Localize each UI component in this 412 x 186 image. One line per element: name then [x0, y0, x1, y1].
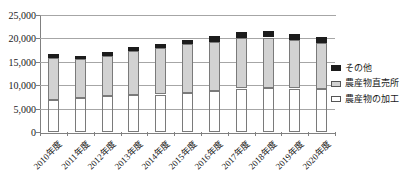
- x-tick-mark: [40, 132, 41, 136]
- y-tick-label: 10,000: [0, 80, 36, 91]
- x-tick-mark: [281, 132, 282, 136]
- x-tick-label: 2018年度: [247, 139, 280, 172]
- y-tick-label: 0: [0, 127, 36, 138]
- bar-segment: [236, 89, 247, 133]
- bar-segment: [289, 89, 300, 133]
- bar-segment: [48, 100, 59, 132]
- bar-segment: [209, 42, 220, 91]
- bar-segment: [316, 43, 327, 89]
- legend-label: その他: [345, 63, 372, 74]
- bar-segment: [236, 32, 247, 38]
- bar-segment: [102, 52, 113, 56]
- x-tick-label: 2015年度: [166, 139, 199, 172]
- legend-swatch: [331, 81, 341, 87]
- bar-segment: [75, 56, 86, 59]
- bar-segment: [316, 37, 327, 43]
- bar-segment: [155, 44, 166, 48]
- y-tick-mark: [36, 38, 40, 39]
- bar-segment: [182, 40, 193, 44]
- stacked-bar-chart: 05,00010,00015,00020,00025,000 2010年度201…: [0, 0, 412, 186]
- x-tick-label: 2013年度: [112, 139, 145, 172]
- bar-segment: [48, 58, 59, 100]
- x-tick-label: 2017年度: [220, 139, 253, 172]
- bar-segment: [316, 89, 327, 132]
- x-tick-mark: [174, 132, 175, 136]
- y-tick-mark: [36, 85, 40, 86]
- x-tick-mark: [94, 132, 95, 136]
- bar-segment: [236, 38, 247, 89]
- y-tick-label: 15,000: [0, 57, 36, 68]
- y-tick-label: 25,000: [0, 10, 36, 21]
- y-tick-mark: [36, 109, 40, 110]
- x-tick-mark: [67, 132, 68, 136]
- bar-segment: [48, 54, 59, 58]
- bar-segment: [182, 93, 193, 132]
- bar-segment: [209, 36, 220, 42]
- bar-segment: [155, 95, 166, 132]
- bar-segment: [128, 95, 139, 132]
- bar-segment: [128, 51, 139, 95]
- x-tick-mark: [121, 132, 122, 136]
- x-tick-mark: [201, 132, 202, 136]
- legend-item: 農産物直売所: [331, 78, 399, 90]
- x-tick-mark: [308, 132, 309, 136]
- y-tick-label: 5,000: [0, 104, 36, 115]
- legend-item: 農産物の加工: [331, 93, 399, 105]
- y-tick-label: 20,000: [0, 33, 36, 44]
- bar-segment: [289, 34, 300, 40]
- bar-segment: [75, 98, 86, 132]
- bar-segment: [102, 56, 113, 96]
- bar-segment: [128, 47, 139, 51]
- legend-swatch: [331, 65, 341, 71]
- bar-segment: [155, 48, 166, 94]
- bar-segment: [263, 31, 274, 37]
- legend-label: 農産物直売所: [345, 78, 399, 89]
- legend-item: その他: [331, 62, 372, 74]
- y-tick-mark: [36, 62, 40, 63]
- x-tick-mark: [147, 132, 148, 136]
- bar-segment: [263, 38, 274, 89]
- x-tick-label: 2010年度: [32, 139, 65, 172]
- x-tick-label: 2011年度: [59, 139, 91, 171]
- x-tick-label: 2019年度: [273, 139, 306, 172]
- y-tick-mark: [36, 15, 40, 16]
- bar-segment: [263, 88, 274, 132]
- legend-swatch: [331, 96, 341, 102]
- x-tick-mark: [255, 132, 256, 136]
- bar-segment: [209, 91, 220, 132]
- x-tick-label: 2020年度: [300, 139, 333, 172]
- bar-segment: [75, 59, 86, 98]
- bar-segment: [182, 44, 193, 93]
- x-tick-mark: [335, 132, 336, 136]
- legend-label: 農産物の加工: [345, 94, 399, 105]
- x-tick-mark: [228, 132, 229, 136]
- bar-segment: [289, 40, 300, 88]
- x-tick-label: 2014年度: [139, 139, 172, 172]
- bar-segment: [102, 96, 113, 132]
